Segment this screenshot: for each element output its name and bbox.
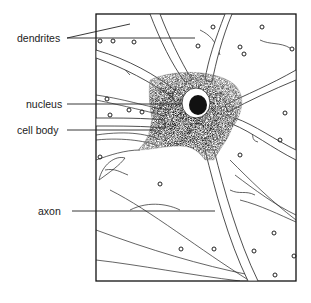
nucleus-core — [189, 95, 207, 115]
label-axon: axon — [38, 205, 61, 217]
label-dendrites: dendrites — [17, 32, 60, 44]
neuron-illustration — [0, 0, 311, 303]
label-nucleus: nucleus — [26, 98, 62, 110]
label-cell-body: cell body — [17, 124, 58, 136]
